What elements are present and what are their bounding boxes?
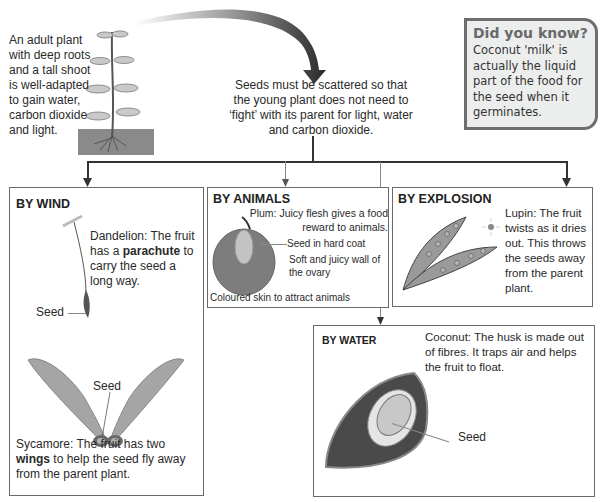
plum-seed-label: Seed in hard coat — [287, 238, 365, 249]
wind-panel: BY WIND Dandelion: The fruit has a parac… — [9, 187, 204, 496]
plum-wall-label: Soft and juicy wall of the ovary — [289, 253, 389, 279]
dandelion-seed-pointer — [68, 313, 86, 314]
lupin-caption: Lupin: The fruit twists as it dries out.… — [505, 206, 593, 296]
explosion-title: BY EXPLOSION — [398, 192, 492, 206]
sycamore-caption: Sycamore: The fruit has two wings to hel… — [16, 437, 201, 482]
coconut-illustration — [322, 371, 432, 471]
coconut-caption: Coconut: The husk is made out of fibres.… — [425, 330, 593, 375]
sycamore-seed-label: Seed — [93, 379, 121, 394]
animals-panel: BY ANIMALS Plum: Juicy flesh gives a foo… — [207, 187, 389, 308]
plum-seed-pointer — [260, 244, 287, 245]
explosion-panel: BY EXPLOSION Lupin: The fruit twists as … — [392, 187, 593, 307]
dandelion-caption: Dandelion: The fruit has a parachute to … — [90, 229, 202, 289]
dandelion-seed-label: Seed — [36, 305, 64, 320]
animals-title: BY ANIMALS — [213, 192, 290, 206]
coconut-seed-label: Seed — [458, 430, 486, 445]
water-panel: BY WATER Coconut: The husk is made out o… — [313, 325, 595, 497]
plum-skin-label: Coloured skin to attract animals — [210, 292, 350, 303]
wind-title: BY WIND — [16, 197, 70, 211]
lupin-illustration — [401, 212, 501, 292]
plum-caption: Plum: Juicy flesh gives a food reward to… — [246, 206, 388, 234]
water-title: BY WATER — [322, 334, 376, 346]
